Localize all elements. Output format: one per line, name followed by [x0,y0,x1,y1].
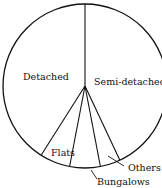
label-flats: Flats [51,147,75,158]
pie-chart: Detached Semi-detached Flats Others Bung… [0,0,162,188]
label-bungalows: Bungalows [97,176,150,187]
label-semi-detached: Semi-detached [94,76,162,87]
label-detached: Detached [23,71,69,82]
slice-boundary-others [85,86,120,160]
slice-boundary-bungalows [85,86,100,167]
label-others: Others [128,162,161,173]
